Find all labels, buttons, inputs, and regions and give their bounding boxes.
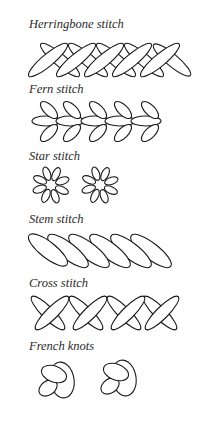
cross-stitch-illustration: [27, 292, 182, 333]
herringbone-stitch-illustration: [25, 39, 194, 80]
french-knots-illustration: [36, 358, 139, 400]
star-stitch-illustration: [32, 166, 119, 204]
stem-stitch-illustration: [24, 229, 175, 273]
fern-stitch-illustration: [32, 99, 161, 145]
stitch-illustrations: [0, 0, 207, 422]
